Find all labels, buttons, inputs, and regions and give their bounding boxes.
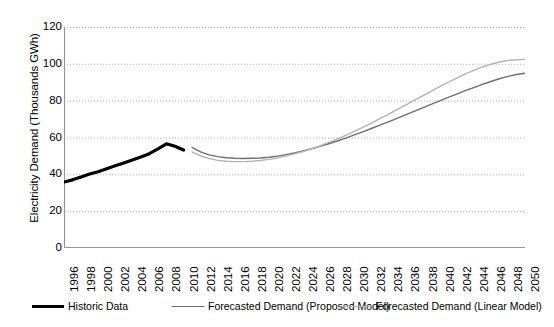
x-tick-label: 2000 bbox=[102, 266, 114, 292]
x-tick-label: 2042 bbox=[461, 266, 473, 292]
x-tick-label: 2018 bbox=[256, 266, 268, 292]
x-tick-label: 2028 bbox=[341, 266, 353, 292]
y-tick-label: 60 bbox=[28, 132, 62, 143]
y-tick-label: 20 bbox=[28, 205, 62, 216]
x-tick-label: 2010 bbox=[188, 266, 200, 292]
plot-svg bbox=[64, 27, 525, 248]
x-tick-label: 2038 bbox=[427, 266, 439, 292]
x-tick-label: 2020 bbox=[273, 266, 285, 292]
x-tick-label: 2050 bbox=[529, 266, 541, 292]
chart-legend: Historic DataForecasted Demand (Proposed… bbox=[0, 298, 554, 318]
x-tick-label: 1998 bbox=[85, 266, 97, 292]
x-tick-label: 2012 bbox=[205, 266, 217, 292]
y-tick-label: 0 bbox=[28, 242, 62, 253]
series-line-0 bbox=[64, 144, 184, 182]
x-tick-label: 2048 bbox=[512, 266, 524, 292]
legend-label: Forecasted Demand (Linear Model) bbox=[376, 300, 542, 312]
y-tick-label: 100 bbox=[28, 58, 62, 69]
x-tick-label: 2006 bbox=[153, 266, 165, 292]
plot-area bbox=[64, 27, 525, 248]
y-tick-label: 40 bbox=[28, 168, 62, 179]
x-tick-label: 2022 bbox=[290, 266, 302, 292]
series-line-1 bbox=[192, 73, 525, 158]
legend-item[interactable]: Historic Data bbox=[32, 300, 128, 312]
x-tick-label: 2002 bbox=[119, 266, 131, 292]
x-tick-label: 2044 bbox=[478, 266, 490, 292]
legend-line-swatch bbox=[32, 305, 64, 308]
legend-line-swatch bbox=[172, 306, 204, 307]
x-tick-label: 2036 bbox=[409, 266, 421, 292]
x-tick-label: 2026 bbox=[324, 266, 336, 292]
x-tick-label: 2008 bbox=[170, 266, 182, 292]
x-tick-label: 2030 bbox=[358, 266, 370, 292]
legend-item[interactable]: Forecasted Demand (Linear Model) bbox=[340, 300, 542, 312]
y-axis-tick-labels: 120100806040200 bbox=[26, 0, 62, 327]
x-tick-label: 2032 bbox=[375, 266, 387, 292]
chart-container: Electricity Demand (Thousands GWh) 12010… bbox=[0, 0, 554, 327]
y-tick-label: 120 bbox=[28, 21, 62, 32]
legend-line-swatch bbox=[340, 306, 372, 307]
legend-label: Historic Data bbox=[68, 300, 128, 312]
x-tick-label: 2016 bbox=[239, 266, 251, 292]
x-tick-label: 2046 bbox=[495, 266, 507, 292]
x-tick-label: 1996 bbox=[68, 266, 80, 292]
x-tick-label: 2004 bbox=[136, 266, 148, 292]
x-tick-label: 2024 bbox=[307, 266, 319, 292]
series-line-2 bbox=[192, 59, 525, 161]
x-tick-label: 2034 bbox=[392, 266, 404, 292]
x-axis-tick-labels: 1996199820002002200420062008201020122014… bbox=[64, 252, 525, 298]
x-tick-label: 2040 bbox=[444, 266, 456, 292]
y-tick-label: 80 bbox=[28, 95, 62, 106]
x-tick-label: 2014 bbox=[222, 266, 234, 292]
